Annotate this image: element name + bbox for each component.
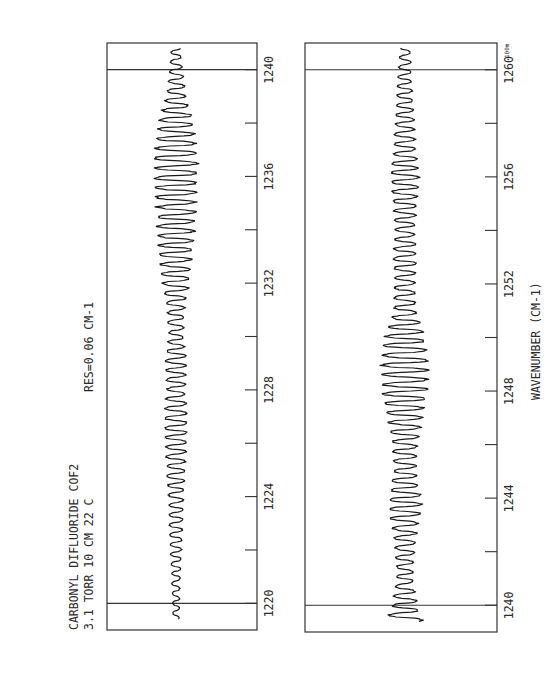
spectrum-trace: [380, 48, 429, 621]
tick-label: 1220: [262, 590, 276, 618]
tick-label: 1236: [262, 163, 276, 191]
title-line-1: CARBONYL DIFLUORIDE COF2: [67, 464, 81, 630]
tick-label: 1252: [502, 270, 516, 298]
tick-label: 1248: [502, 377, 516, 405]
tick-label: 1228: [262, 376, 276, 404]
spectrum-figure: CARBONYL DIFLUORIDE COF2 3.1 TORR 10 CM …: [0, 0, 555, 675]
spectrum-panel-1220-1240: 122012241228123212361240: [107, 43, 276, 630]
scale-mark-label: 100m: [503, 43, 510, 58]
tick-label: 1224: [262, 483, 276, 511]
spectrum-plot-canvas: CARBONYL DIFLUORIDE COF2 3.1 TORR 10 CM …: [0, 0, 555, 675]
tick-label: 1240: [262, 56, 276, 84]
spectrum-trace: [154, 48, 199, 619]
tick-label: 1240: [502, 591, 516, 619]
title-line-2: 3.1 TORR 10 CM 22 C: [82, 498, 96, 630]
resolution-label: RES=0.06 CM-1: [82, 302, 96, 392]
spectrum-panel-1240-1260: 124012441248125212561260: [305, 43, 516, 632]
tick-label: 1232: [262, 269, 276, 297]
plot-frame: [305, 43, 497, 632]
tick-label: 1260: [502, 56, 516, 84]
tick-label: 1244: [502, 484, 516, 512]
tick-label: 1256: [502, 163, 516, 191]
x-axis-title: WAVENUMBER (CM-1): [529, 282, 543, 400]
